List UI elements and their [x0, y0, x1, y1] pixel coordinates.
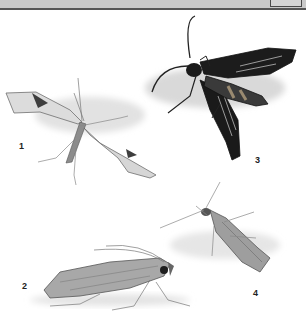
figure-label-2: 2 [22, 282, 27, 291]
figure-label-3: 3 [255, 156, 260, 165]
moth-illustrations [0, 10, 306, 327]
figure-label-4: 4 [253, 289, 258, 298]
moth-illustration-plate: 1 2 3 4 [0, 10, 306, 327]
figure-label-1: 1 [19, 142, 24, 151]
window-top-bar [0, 0, 306, 10]
window-control-button[interactable] [270, 0, 302, 7]
moth-1-illustration [6, 78, 156, 185]
